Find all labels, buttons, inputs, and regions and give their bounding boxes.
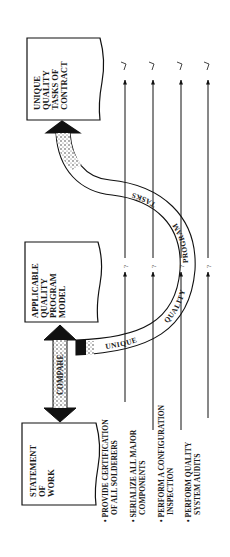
requirement-item: • PERFORM A CONFIGURATIONINSPECTION xyxy=(157,404,175,522)
check-mark-icon xyxy=(177,62,182,70)
requirement-item: • SERIALIZE ALL MAJORCOMPONENTS xyxy=(129,429,147,522)
requirement-lines: ???? xyxy=(121,62,213,430)
requirement-item: • PERFORM QUALITYSYSTEM AUDITS xyxy=(184,441,202,522)
box-applicable-quality-program-model: APPLICABLE QUALITY PROGRAM MODEL xyxy=(25,242,102,322)
requirement-item: • PROVIDE CERTIFICATIONOF ALL SOLDERERS xyxy=(101,419,119,522)
question-mark: ? xyxy=(205,265,213,268)
check-mark-icon xyxy=(121,62,126,70)
question-mark: ? xyxy=(122,265,130,268)
quality-program-diagram: UNIQUE QUALITY TASKS OF CONTRACT APPLICA… xyxy=(0,0,230,557)
check-mark-icon xyxy=(204,62,209,70)
check-mark-icon xyxy=(149,62,154,70)
compare-double-arrow: COMPARE xyxy=(44,325,76,422)
box-statement-of-work: STATEMENT OF WORK xyxy=(22,423,100,505)
box-unique-quality-tasks: UNIQUE QUALITY TASKS OF CONTRACT xyxy=(27,38,104,120)
question-mark: ? xyxy=(150,265,158,268)
question-mark: ? xyxy=(178,265,186,268)
requirement-list: • PROVIDE CERTIFICATIONOF ALL SOLDERERS•… xyxy=(101,404,202,522)
compare-label: COMPARE xyxy=(56,354,65,395)
